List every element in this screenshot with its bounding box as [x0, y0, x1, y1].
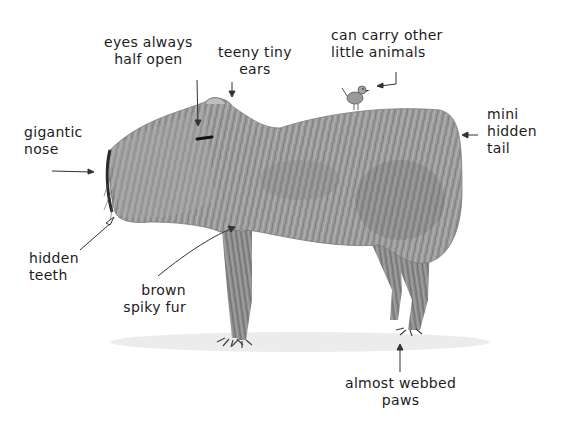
label-fur: brown spiky fur: [112, 282, 186, 316]
ground-shadow: [110, 332, 490, 352]
label-nose-line2: nose: [24, 141, 83, 158]
label-fur-line1: brown: [112, 282, 186, 299]
label-nose-line1: gigantic: [24, 124, 83, 141]
label-animals: can carry other little animals: [331, 27, 443, 61]
label-ears: teeny tiny ears: [218, 44, 292, 78]
label-eyes-line1: eyes always: [104, 34, 193, 51]
label-teeth-line2: teeth: [29, 267, 79, 284]
label-paws: almost webbed paws: [345, 375, 456, 409]
label-eyes-line2: half open: [104, 51, 193, 68]
label-ears-line2: ears: [218, 61, 292, 78]
front-legs: [217, 228, 252, 348]
label-nose: gigantic nose: [24, 124, 83, 158]
label-animals-line2: little animals: [331, 44, 443, 61]
label-teeth-line1: hidden: [29, 250, 79, 267]
capybara-diagram: eyes always half open teeny tiny ears ca…: [0, 0, 566, 436]
label-tail: mini hidden tail: [487, 106, 537, 157]
eye: [197, 137, 212, 139]
label-eyes: eyes always half open: [104, 34, 193, 68]
label-paws-line1: almost webbed: [345, 375, 456, 392]
label-tail-line2: hidden: [487, 123, 537, 140]
label-ears-line1: teeny tiny: [218, 44, 292, 61]
bird: [342, 86, 370, 110]
ear: [205, 98, 226, 104]
label-animals-line1: can carry other: [331, 27, 443, 44]
label-tail-line3: tail: [487, 140, 537, 157]
label-teeth: hidden teeth: [29, 250, 79, 284]
label-fur-line2: spiky fur: [112, 299, 186, 316]
label-paws-line2: paws: [345, 392, 456, 409]
label-tail-line1: mini: [487, 106, 537, 123]
